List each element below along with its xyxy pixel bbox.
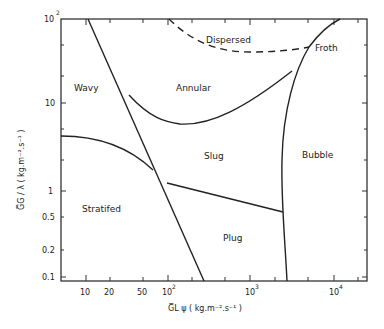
y-ticks [61,45,367,277]
region-label-slug: Slug [204,151,224,161]
x-tick-label-1000-exp: 3 [255,283,259,290]
x-tick-label-20: 20 [104,288,114,297]
y-tick-label-100: 10 [44,15,54,24]
y-tick-label-10: 10 [45,99,55,108]
slug-plug-boundary [167,183,283,212]
region-label-wavy: Wavy [74,83,99,93]
region-label-plug: Plug [223,233,242,243]
y-axis-label: G̅G / λ ( kg.m⁻².s⁻¹ ) [16,130,26,210]
y-tick-label-0.1: 0.1 [42,273,55,282]
y-tick-label-1: 1 [48,187,53,196]
x-tick-label-100-exp: 2 [172,283,176,290]
region-label-froth: Froth [315,43,338,53]
region-label-stratified: Stratifed [82,204,121,214]
x-tick-label-10000: 10 [329,288,339,297]
y-tick-label-0.5: 0.5 [42,213,55,222]
x-axis-label: G̅L ψ ( kg.m⁻².s⁻¹ ) [168,303,242,313]
region-label-dispersed: Dispersed [206,35,251,45]
x-tick-label-10000-exp: 4 [339,283,343,290]
y-tick-label-100-exp: 2 [56,9,60,16]
x-tick-label-10: 10 [80,288,90,297]
x-tick-label-1000: 10 [245,288,255,297]
steep-boundary [88,19,204,281]
region-label-bubble: Bubble [302,150,334,160]
region-label-annular: Annular [176,83,211,93]
x-tick-label-100: 10 [162,288,172,297]
y-tick-label-0.2: 0.2 [42,246,55,255]
wavy-stratified-boundary [61,136,153,170]
flow-regime-map: Dispersed Froth Wavy Annular Slug Bubble… [0,0,384,329]
x-tick-label-50: 50 [137,288,147,297]
annular-lower-boundary [129,71,292,124]
